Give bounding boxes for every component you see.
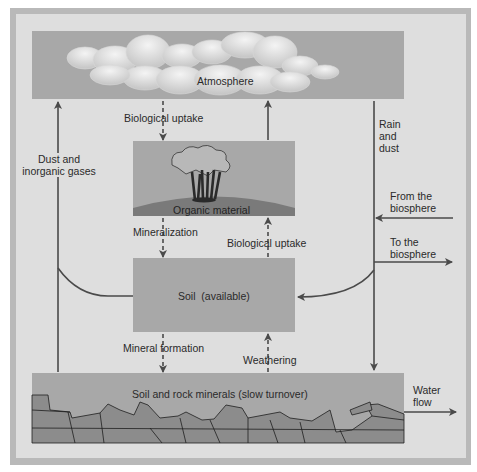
right-curve-to-soil: [298, 270, 374, 297]
atmosphere-label: Atmosphere: [197, 75, 254, 87]
weathering-label: Weathering: [243, 354, 297, 366]
organic-material-label: Organic material: [173, 204, 250, 216]
to-biosphere-label: To the biosphere: [390, 236, 436, 260]
water-flow-label: Water flow: [413, 384, 441, 408]
rain-dust-label: Rain and dust: [379, 118, 401, 154]
mineralization-label: Mineralization: [133, 226, 198, 238]
dust-gases-label: Dust and inorganic gases: [20, 153, 98, 177]
tree-icon: [172, 145, 230, 202]
biological-uptake-label-top: Biological uptake: [124, 112, 203, 124]
soil-available-label: Soil (available): [178, 290, 250, 302]
biological-uptake-label-soil: Biological uptake: [227, 237, 306, 249]
from-biosphere-label: From the biosphere: [390, 190, 436, 214]
mineral-formation-label: Mineral formation: [123, 342, 204, 354]
rock-layer: [32, 395, 404, 443]
rock-minerals-label: Soil and rock minerals (slow turnover): [132, 388, 308, 400]
left-curve-to-soil: [58, 268, 133, 296]
